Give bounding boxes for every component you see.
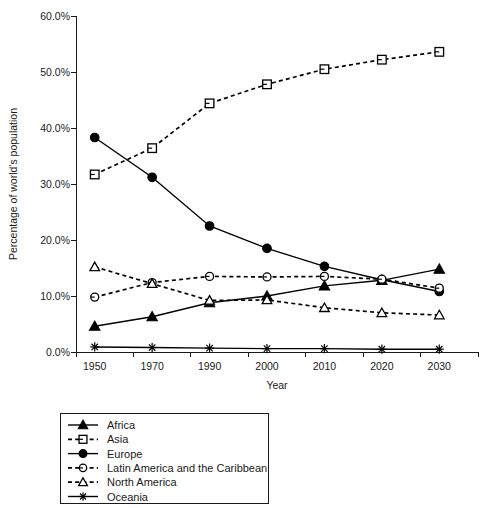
y-tick-label: 60.0% (40, 10, 70, 22)
series-line (95, 52, 440, 175)
x-axis-title: Year (266, 379, 288, 391)
data-point-marker (263, 244, 272, 253)
y-tick-label: 0.0% (46, 346, 70, 358)
y-axis-title: Percentage of world's population (7, 108, 19, 260)
series-europe (90, 133, 443, 296)
legend-label: Latin America and the Caribbean (107, 462, 267, 474)
x-tick-label: 2000 (255, 360, 279, 372)
data-series-layer (90, 48, 445, 354)
data-point-marker (90, 133, 99, 142)
data-point-marker (320, 344, 329, 353)
legend-label: North America (107, 476, 178, 488)
data-point-marker (148, 343, 157, 352)
legend-label: Europe (107, 448, 142, 460)
x-tick-label: 1990 (198, 360, 222, 372)
x-axis-ticks (76, 352, 478, 357)
data-point-marker (434, 264, 444, 273)
data-point-marker (90, 262, 100, 271)
data-point-marker (377, 345, 386, 354)
data-point-marker (205, 343, 214, 352)
data-point-marker (148, 173, 157, 182)
series-line (95, 138, 440, 292)
y-tick-label: 30.0% (40, 178, 70, 190)
legend-label: Asia (107, 433, 129, 445)
x-axis-tick-labels: 1950197019902000201020202030 (83, 360, 451, 372)
chart-figure: 0.0%10.0%20.0%30.0%40.0%50.0%60.0% 19501… (0, 0, 490, 508)
y-tick-label: 20.0% (40, 234, 70, 246)
data-point-marker (262, 344, 271, 353)
data-point-marker (79, 450, 87, 458)
data-point-marker (90, 342, 99, 351)
y-tick-label: 10.0% (40, 290, 70, 302)
x-tick-label: 1970 (140, 360, 164, 372)
data-point-marker (205, 222, 214, 231)
y-axis-tick-labels: 0.0%10.0%20.0%30.0%40.0%50.0%60.0% (40, 10, 70, 358)
data-point-marker (79, 492, 87, 500)
data-point-marker (435, 345, 444, 354)
legend-frame (60, 413, 268, 503)
legend-label: Africa (107, 419, 136, 431)
x-tick-label: 2030 (428, 360, 452, 372)
x-tick-label: 1950 (83, 360, 107, 372)
series-asia (90, 48, 443, 179)
y-axis-ticks (71, 16, 76, 352)
data-point-marker (320, 262, 329, 271)
chart-legend: AfricaAsiaEuropeLatin America and the Ca… (60, 413, 268, 503)
y-tick-label: 50.0% (40, 66, 70, 78)
population-share-line-chart: 0.0%10.0%20.0%30.0%40.0%50.0%60.0% 19501… (0, 0, 490, 508)
x-tick-label: 2020 (370, 360, 394, 372)
legend-label: Oceania (107, 491, 149, 503)
x-tick-label: 2010 (313, 360, 337, 372)
y-tick-label: 40.0% (40, 122, 70, 134)
